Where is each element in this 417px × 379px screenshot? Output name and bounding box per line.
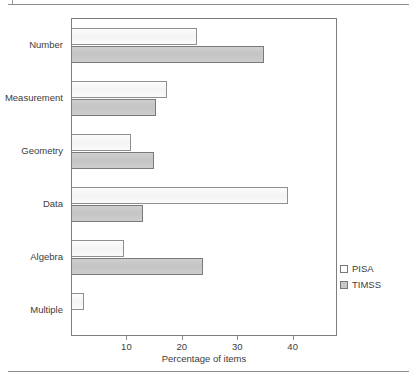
legend-item-pisa[interactable]: PISA [340,262,381,275]
bar-pisa-multiple [72,293,84,310]
bar-pisa-algebra [72,240,124,257]
x-tick-10 [126,336,127,340]
bottom-divider-rule [8,371,409,372]
y-axis-label-multiple: Multiple [30,305,63,315]
x-tick-label-40: 40 [287,341,298,352]
gray-square-icon [340,281,348,289]
x-tick-label-10: 10 [121,341,132,352]
bar-pisa-number [72,28,197,45]
x-tick-label-30: 30 [232,341,243,352]
bar-pisa-measurement [72,81,167,98]
x-tick-30 [237,336,238,340]
x-tick-40 [293,336,294,340]
legend-label-pisa: PISA [352,263,374,274]
top-divider-rule [8,4,409,5]
plot-area [71,18,337,336]
white-square-icon [340,265,348,273]
y-axis-label-geometry: Geometry [21,146,63,156]
x-axis-title: Percentage of items [71,353,337,364]
bar-pisa-data [72,187,288,204]
x-tick-20 [182,336,183,340]
x-tick-label-20: 20 [177,341,188,352]
bar-timss-measurement [72,99,156,116]
bar-pisa-geometry [72,134,131,151]
y-axis-label-data: Data [43,199,63,209]
figure-corner-tick [12,0,13,4]
bar-timss-number [72,46,264,63]
y-axis-label-number: Number [29,40,63,50]
chart-legend: PISA TIMSS [340,262,381,294]
legend-item-timss[interactable]: TIMSS [340,278,381,291]
y-axis-label-measurement: Measurement [5,93,63,103]
figure-container: NumberMeasurementGeometryDataAlgebraMult… [0,0,417,379]
y-axis-labels: NumberMeasurementGeometryDataAlgebraMult… [0,18,67,336]
bars-layer [72,19,336,335]
bar-timss-data [72,205,143,222]
bar-timss-algebra [72,258,203,275]
bar-timss-geometry [72,152,154,169]
y-axis-label-algebra: Algebra [30,252,63,262]
legend-label-timss: TIMSS [352,279,381,290]
